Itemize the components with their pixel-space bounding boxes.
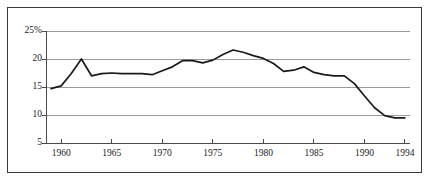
- x-axis-label-1970: 1970: [142, 149, 182, 159]
- x-axis-label-1975: 1975: [193, 149, 233, 159]
- data-line-group: [51, 50, 405, 118]
- x-axis-label-1994: 1994: [385, 149, 425, 159]
- y-axis-label-5: 5: [37, 138, 42, 148]
- chart-figure: 25%2015105 19601965197019751980198519901…: [0, 0, 431, 186]
- y-axis-label-15: 15: [33, 82, 43, 92]
- x-axis-label-1965: 1965: [92, 149, 132, 159]
- y-axis-label-20: 20: [33, 54, 43, 64]
- x-axis-label-1990: 1990: [345, 149, 385, 159]
- y-axis-label-25: 25%: [25, 26, 42, 36]
- x-axis-label-1960: 1960: [41, 149, 81, 159]
- x-axis-label-1980: 1980: [243, 149, 283, 159]
- gridlines-group: [46, 31, 410, 143]
- x-axis-label-1985: 1985: [294, 149, 334, 159]
- data-series-line-0: [51, 50, 405, 118]
- y-axis-label-10: 10: [33, 110, 43, 120]
